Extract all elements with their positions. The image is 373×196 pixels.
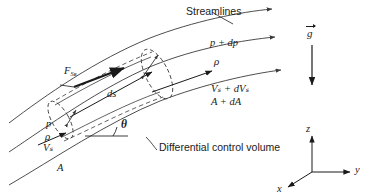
theta-label: θ — [121, 119, 127, 131]
surface-force-subscript: Sʙ — [70, 70, 76, 77]
figure-differential-control-volume: Streamlines p + dp ρ Vₛ + dVₛ A + dA p ρ… — [0, 0, 373, 196]
pressure-inlet-label: p — [46, 119, 51, 130]
density-inlet-label: ρ — [45, 131, 50, 142]
theta-angle-arc — [113, 127, 117, 136]
diagram-canvas — [0, 0, 373, 196]
axis-z-label: z — [306, 124, 310, 135]
outlet-velocity-vector — [152, 71, 212, 92]
control-volume-outlet-face — [135, 45, 179, 104]
velocity-outlet-label: Vₛ + dVₛ — [211, 84, 249, 95]
axis-y-label: y — [355, 165, 360, 176]
streamlines-label: Streamlines — [186, 6, 241, 17]
cv-wall-lower-hidden — [64, 97, 163, 141]
control-volume-leader — [146, 137, 157, 150]
axis-x-line — [288, 172, 312, 187]
area-inlet-label: A — [57, 163, 63, 174]
gravity-vector-overbar — [306, 26, 315, 27]
axis-x-label: x — [277, 184, 282, 195]
coordinate-axes — [288, 136, 350, 187]
gravity-label: g — [307, 28, 313, 39]
area-outlet-label: A + dA — [211, 97, 241, 108]
gravity-symbol: g — [307, 27, 313, 39]
density-outlet-label: ρ — [214, 56, 219, 67]
surface-force-vector — [74, 68, 124, 87]
pressure-outlet-label: p + dp — [210, 38, 238, 49]
control-volume-label: Differential control volume — [159, 142, 280, 153]
surface-force-label: FSʙ — [64, 66, 76, 77]
velocity-inlet-label: Vₛ — [43, 143, 53, 154]
arc-length-label: ds — [107, 89, 116, 100]
